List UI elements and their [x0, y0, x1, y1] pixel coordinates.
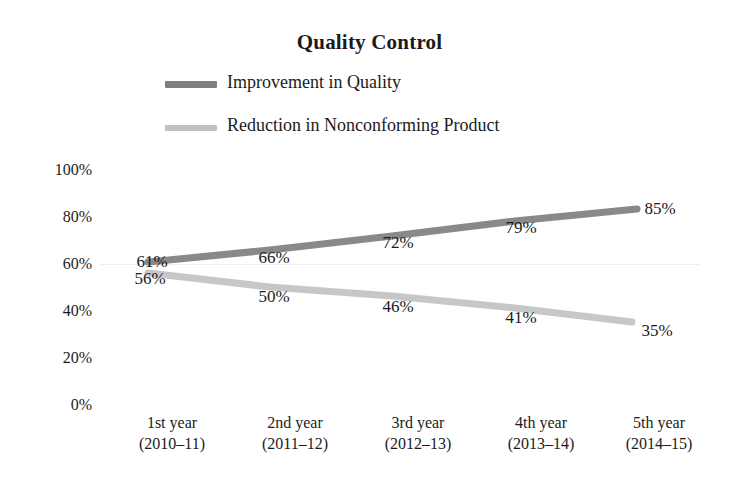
y-tick-label-0: 0%: [22, 396, 92, 414]
data-label-b-1: 56%: [134, 269, 165, 289]
x-tick-line2: (2013–14): [476, 433, 606, 454]
x-tick-line2: (2012–13): [353, 433, 483, 454]
data-label-a-2: 66%: [258, 248, 289, 268]
x-tick-label-1st-year: 1st year (2010–11): [107, 412, 237, 454]
y-tick-label-40: 40%: [22, 302, 92, 320]
x-tick-line1: 2nd year: [267, 414, 323, 431]
x-tick-line1: 3rd year: [392, 414, 445, 431]
x-tick-label-4th-year: 4th year (2013–14): [476, 412, 606, 454]
data-label-b-3: 46%: [382, 297, 413, 317]
y-tick-label-100: 100%: [22, 161, 92, 179]
data-label-b-2: 50%: [258, 287, 289, 307]
x-tick-label-5th-year: 5th year (2014–15): [594, 412, 724, 454]
x-tick-line1: 1st year: [147, 414, 197, 431]
data-label-a-5: 85%: [644, 199, 675, 219]
x-tick-label-2nd-year: 2nd year (2011–12): [230, 412, 360, 454]
series-lines: [0, 0, 739, 483]
y-tick-label-20: 20%: [22, 349, 92, 367]
data-label-b-4: 41%: [505, 308, 536, 328]
plot-area: 100% 80% 60% 40% 20% 0% 61% 66% 72% 79% …: [0, 0, 739, 483]
data-label-a-4: 79%: [505, 218, 536, 238]
data-label-a-3: 72%: [382, 233, 413, 253]
data-label-b-5: 35%: [641, 321, 672, 341]
x-tick-label-3rd-year: 3rd year (2012–13): [353, 412, 483, 454]
gridline-60: [100, 264, 700, 265]
x-tick-line2: (2011–12): [230, 433, 360, 454]
y-tick-label-60: 60%: [22, 255, 92, 273]
quality-control-chart: Quality Control Improvement in Quality R…: [0, 0, 739, 483]
y-tick-label-80: 80%: [22, 208, 92, 226]
x-tick-line1: 4th year: [515, 414, 567, 431]
x-tick-line2: (2010–11): [107, 433, 237, 454]
x-tick-line2: (2014–15): [594, 433, 724, 454]
x-tick-line1: 5th year: [633, 414, 685, 431]
